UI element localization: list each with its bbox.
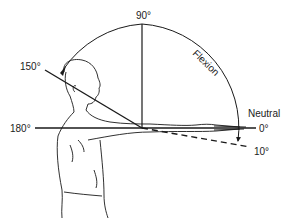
label-180: 180°: [10, 123, 31, 134]
label-90: 90°: [136, 10, 151, 21]
label-0: 0°: [259, 123, 269, 134]
flexion-arc: [63, 24, 239, 141]
human-figure: [57, 60, 246, 219]
label-neutral: Neutral: [248, 108, 280, 119]
reference-lines: [35, 24, 256, 147]
label-150: 150°: [20, 61, 41, 72]
label-10: 10°: [254, 146, 269, 157]
line-150: [45, 70, 142, 128]
shoulder-flexion-diagram: 90° 150° 180° 0° Neutral 10° Flexion: [0, 0, 294, 221]
line-minus10: [142, 128, 250, 147]
